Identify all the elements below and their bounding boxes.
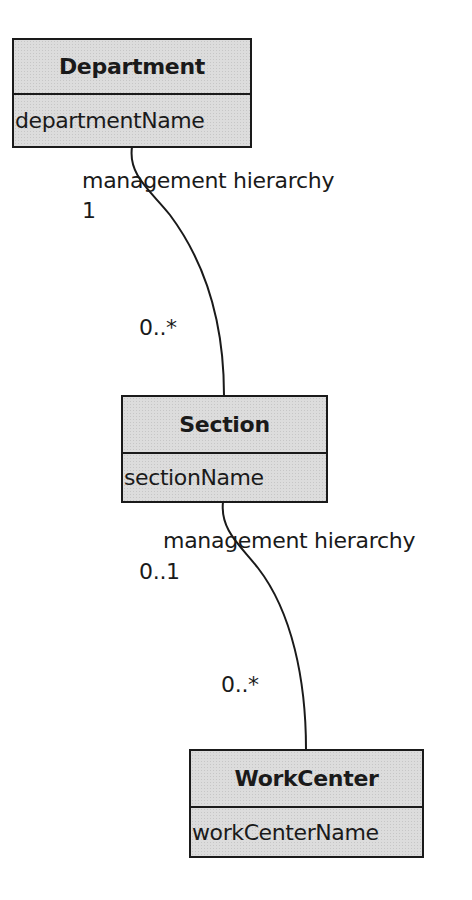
class-department[interactable]: Department departmentName: [12, 38, 252, 148]
class-name-workcenter: WorkCenter: [191, 751, 422, 808]
multiplicity-workcenter-end: 0..*: [221, 674, 259, 696]
multiplicity-department-end: 1: [82, 200, 96, 222]
attribute-section-name: sectionName: [123, 454, 326, 501]
association-name-2: management hierarchy: [163, 530, 415, 552]
multiplicity-section-end-2: 0..1: [139, 561, 180, 583]
class-name-department: Department: [14, 40, 250, 95]
attribute-department-name: departmentName: [14, 95, 250, 146]
class-name-section: Section: [123, 397, 326, 454]
attribute-workcenter-name: workCenterName: [191, 808, 422, 856]
multiplicity-section-end-1: 0..*: [139, 317, 177, 339]
class-workcenter[interactable]: WorkCenter workCenterName: [189, 749, 424, 858]
association-name-1: management hierarchy: [82, 170, 334, 192]
class-section[interactable]: Section sectionName: [121, 395, 328, 503]
